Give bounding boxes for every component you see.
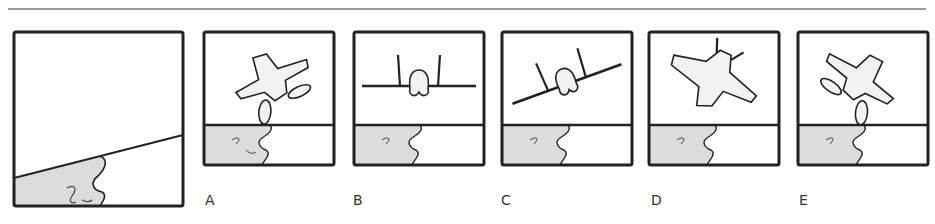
jet-top-view-icon <box>202 30 336 167</box>
option-b-panel[interactable] <box>352 30 486 167</box>
option-d-label: D <box>651 192 662 208</box>
option-c-panel[interactable] <box>500 30 634 167</box>
jet-shape <box>502 36 625 113</box>
jet-shape <box>226 38 325 132</box>
jet-front-level-icon <box>352 30 486 167</box>
option-a-label: A <box>205 192 215 208</box>
option-b-label: B <box>353 192 363 208</box>
jet-top-banked-right-icon <box>647 30 781 167</box>
option-e-panel[interactable] <box>796 30 930 167</box>
banked-horizon-icon <box>12 30 185 208</box>
option-d-panel[interactable] <box>647 30 781 167</box>
jet-top-view-icon <box>796 30 930 167</box>
reference-panel <box>12 30 185 208</box>
jet-front-banked-icon <box>500 30 634 167</box>
jet-shape <box>362 55 476 95</box>
option-a-panel[interactable] <box>202 30 336 167</box>
jet-shape <box>805 34 908 134</box>
jet-shape <box>659 30 772 127</box>
option-e-label: E <box>799 192 808 208</box>
top-divider <box>8 8 926 10</box>
option-c-label: C <box>501 192 511 208</box>
